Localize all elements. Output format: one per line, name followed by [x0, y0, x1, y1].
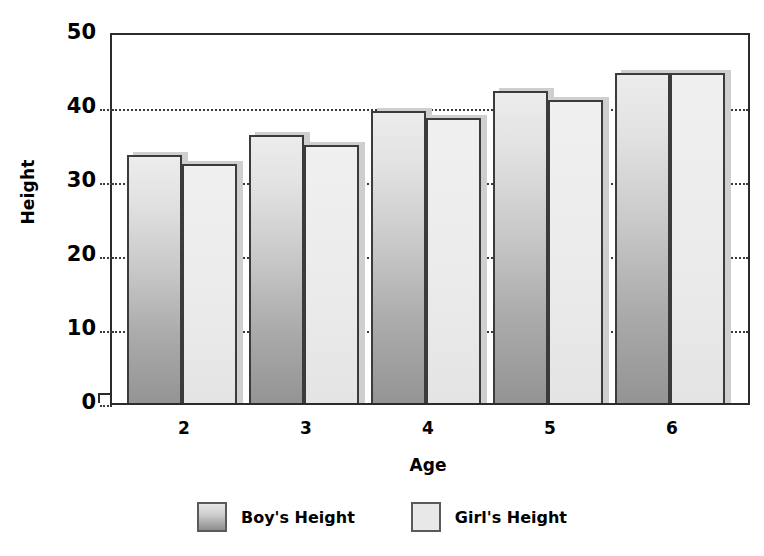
bar-group-age-5 — [493, 35, 611, 405]
bar-boys-height-age-5[interactable] — [493, 91, 548, 405]
legend-item-girls-height[interactable]: Girl's Height — [411, 502, 567, 532]
bar-group-age-4 — [371, 35, 489, 405]
x-tick-label-4: 4 — [369, 418, 487, 438]
legend-swatch-boys-height-icon — [197, 502, 227, 532]
chart-legend: Boy's Height Girl's Height — [0, 502, 764, 532]
y-tick-label: 30 — [50, 170, 96, 191]
legend-label-boys-height: Boy's Height — [241, 508, 355, 527]
tickmark-10 — [100, 331, 112, 333]
y-axis-title: Height — [18, 142, 38, 242]
bar-girls-height-age-6[interactable] — [670, 73, 725, 405]
bar-girls-height-age-5[interactable] — [548, 100, 603, 405]
legend-swatch-girls-height-icon — [411, 502, 441, 532]
bar-group-age-2 — [127, 35, 245, 405]
tickmark-0 — [100, 405, 112, 407]
bar-boys-height-age-4[interactable] — [371, 111, 426, 405]
y-axis-tick-labels: 50 40 30 20 10 0 — [44, 0, 96, 556]
x-tick-label-3: 3 — [247, 418, 365, 438]
x-tick-label-2: 2 — [125, 418, 243, 438]
bar-girls-height-age-3[interactable] — [304, 145, 359, 405]
plot-area — [110, 33, 750, 405]
bar-boys-height-age-2[interactable] — [127, 155, 182, 405]
axis-origin-riser — [98, 393, 100, 403]
bar-chart: Height 50 40 30 20 10 0 — [0, 0, 764, 556]
tickmark-20 — [100, 257, 112, 259]
bar-girls-height-age-4[interactable] — [426, 118, 481, 405]
bar-group-age-3 — [249, 35, 367, 405]
x-tick-label-6: 6 — [613, 418, 731, 438]
bar-girls-height-age-2[interactable] — [182, 164, 237, 405]
tickmark-40 — [100, 109, 112, 111]
tickmark-30 — [100, 183, 112, 185]
bar-boys-height-age-6[interactable] — [615, 73, 670, 405]
bar-group-age-6 — [615, 35, 733, 405]
x-axis-line — [110, 403, 748, 405]
y-tick-label: 10 — [50, 318, 96, 339]
y-tick-label: 50 — [50, 22, 96, 43]
y-tick-label: 40 — [50, 96, 96, 117]
x-axis-title: Age — [110, 455, 746, 475]
legend-item-boys-height[interactable]: Boy's Height — [197, 502, 355, 532]
y-tick-label: 20 — [50, 244, 96, 265]
x-tick-label-5: 5 — [491, 418, 609, 438]
bar-boys-height-age-3[interactable] — [249, 135, 304, 405]
legend-label-girls-height: Girl's Height — [455, 508, 567, 527]
y-tick-label: 0 — [50, 392, 96, 413]
